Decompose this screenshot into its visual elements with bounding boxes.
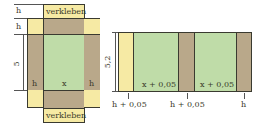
strip-label-x1: x + 0,05 (142, 81, 176, 89)
height-dimension-line (23, 35, 24, 90)
corner-flap-top-left (27, 18, 44, 35)
label-left-h: h (32, 80, 37, 88)
strip-panel-1 (118, 32, 134, 92)
corner-flap-top-right (84, 18, 100, 35)
arrow-up-icon (128, 93, 129, 99)
marker-label-2: h + 0,05 (170, 101, 205, 109)
strip-panel-5 (236, 32, 252, 92)
top-glue-tab-label: verkleben (46, 8, 86, 16)
marker-label-1: h + 0,05 (112, 101, 147, 109)
height-dimension-line (115, 32, 116, 92)
label-h-top: h (16, 7, 21, 15)
label-right-h: h (89, 80, 94, 88)
label-h-second: h (16, 23, 21, 31)
guide-line-row3 (14, 34, 28, 35)
corner-flap-bottom-left (27, 90, 44, 108)
guide-line-top (14, 4, 44, 5)
label-height-5-2: 5,2 (104, 56, 112, 69)
guide-line-row4 (14, 90, 28, 91)
marker-label-3: h (241, 101, 246, 109)
guide-line-row2 (14, 18, 28, 19)
top-flap (43, 18, 85, 35)
strip-label-x2: x + 0,05 (200, 81, 234, 89)
arrow-up-icon (244, 93, 245, 99)
bottom-flap (43, 90, 85, 109)
arrow-up-icon (187, 93, 188, 99)
label-height-5: 5 (13, 61, 21, 66)
bottom-glue-tab-label: verkleben (46, 112, 86, 120)
corner-flap-bottom-right (84, 90, 100, 108)
label-center-x: x (62, 80, 67, 88)
strip-panel-3 (178, 32, 195, 92)
